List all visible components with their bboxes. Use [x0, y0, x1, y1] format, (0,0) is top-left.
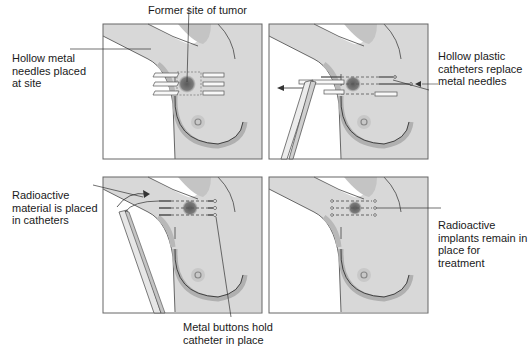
label-hollow-metal-needles: Hollow metal needles placed at site: [12, 52, 86, 90]
panel-step-3: [93, 177, 262, 317]
label-former-tumor-site: Former site of tumor: [148, 4, 247, 17]
panel-step-1: [103, 7, 262, 159]
label-metal-buttons: Metal buttons hold catheter in place: [183, 321, 273, 346]
panel-step-2: [269, 24, 429, 159]
panel-step-4: [269, 177, 441, 313]
label-hollow-plastic-catheters: Hollow plastic catheters replace metal n…: [438, 50, 522, 88]
label-radioactive-implants-remain: Radioactive implants remain in place for…: [438, 219, 529, 269]
label-radioactive-material-placed: Radioactive material is placed in cathet…: [12, 189, 98, 227]
